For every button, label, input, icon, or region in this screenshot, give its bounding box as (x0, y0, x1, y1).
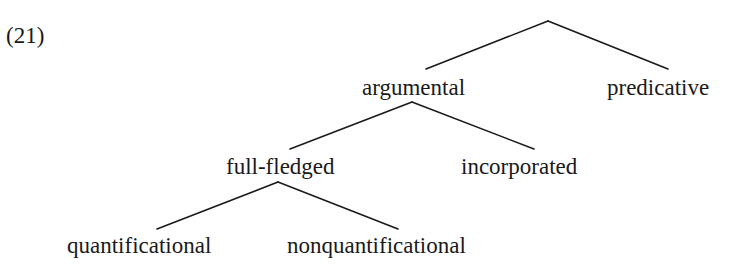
edge-fullfledged-nonquantificational (278, 182, 398, 229)
node-incorporated: incorporated (461, 155, 577, 178)
node-argumental: argumental (362, 76, 465, 99)
edge-argumental-incorporated (412, 102, 534, 149)
node-full-fledged: full-fledged (226, 155, 335, 178)
edge-fullfledged-quantificational (157, 182, 278, 229)
edge-argumental-fullfledged (290, 102, 412, 149)
node-quantificational: quantificational (67, 234, 211, 257)
tree-branches (0, 0, 749, 271)
edge-root-predicative (548, 21, 668, 69)
edge-root-argumental (426, 21, 548, 69)
node-nonquantificational: nonquantificational (287, 234, 466, 257)
node-predicative: predicative (607, 76, 709, 99)
